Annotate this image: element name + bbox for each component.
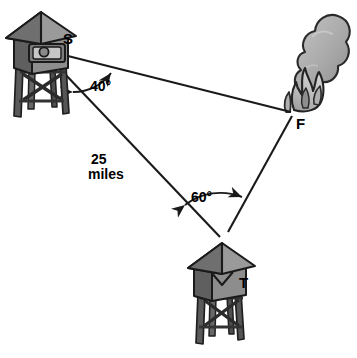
fire-triangulation-diagram: S F T 40° 60° 25 miles (0, 0, 357, 358)
label-angle-t: 60° (191, 190, 212, 205)
sight-lines (44, 50, 292, 237)
label-distance-unit: miles (88, 167, 124, 182)
tower-s-legs (14, 66, 69, 117)
label-station-t: T (239, 275, 248, 291)
diagram-canvas (0, 0, 357, 358)
line-s-to-f (44, 50, 291, 112)
observation-tower-icon-s (6, 12, 76, 117)
label-fire-f: F (296, 116, 305, 132)
label-angle-s: 40° (90, 79, 111, 94)
observation-tower-icon-t (188, 243, 255, 344)
tower-s-observer (39, 47, 48, 56)
line-s-to-t (44, 52, 220, 237)
label-distance-value: 25 (91, 152, 107, 167)
fire-flame-icon (285, 68, 324, 112)
label-station-s: S (63, 31, 73, 47)
line-t-to-f (228, 116, 292, 232)
